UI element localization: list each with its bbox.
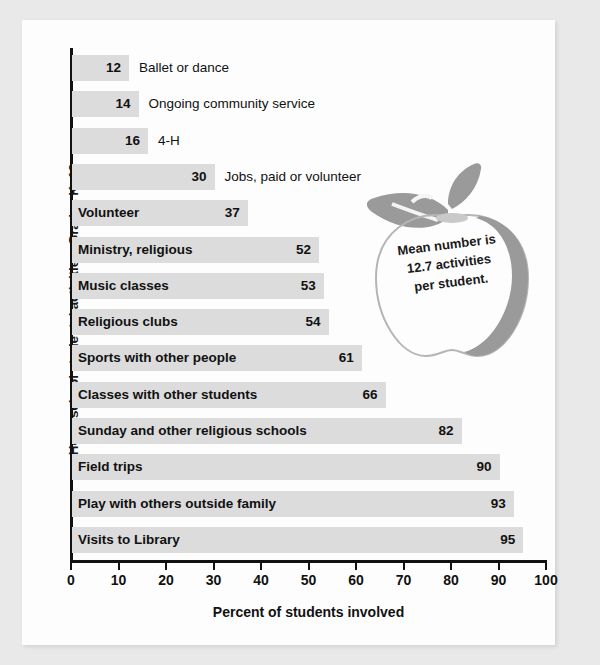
bar-value-label: 66 — [72, 382, 378, 408]
x-axis-tick-label: 50 — [301, 572, 317, 588]
x-axis-tick — [118, 562, 120, 570]
bar-value-label: 95 — [72, 527, 515, 553]
bar-value-label: 14 — [72, 91, 131, 117]
bar-row: Play with others outside family93 — [72, 491, 547, 517]
x-axis: 0102030405060708090100 — [70, 560, 547, 561]
bar-row: 12Ballet or dance — [72, 55, 547, 81]
bar-row: Classes with other students66 — [72, 382, 547, 408]
bar-category-label: Jobs, paid or volunteer — [225, 164, 362, 190]
bar-row: Sunday and other religious schools82 — [72, 418, 547, 444]
x-axis-tick-label: 10 — [111, 572, 127, 588]
apple-callout: Mean number is 12.7 activities per stude… — [352, 158, 552, 368]
x-axis-tick — [403, 562, 405, 570]
bar-category-label: Ballet or dance — [139, 55, 229, 81]
x-axis-tick — [70, 562, 72, 570]
x-axis-tick-label: 60 — [348, 572, 364, 588]
x-axis-tick — [498, 562, 500, 570]
x-axis-tick-label: 100 — [534, 572, 557, 588]
chart-figure: Homeschool students' activities, Grades … — [0, 0, 600, 665]
bar-row: 14Ongoing community service — [72, 91, 547, 117]
x-axis-tick — [165, 562, 167, 570]
bar-value-label: 93 — [72, 491, 506, 517]
bar-value-label: 16 — [72, 128, 140, 154]
x-axis-tick — [260, 562, 262, 570]
x-axis-tick — [450, 562, 452, 570]
x-axis-tick-label: 90 — [491, 572, 507, 588]
bar-row: 164-H — [72, 128, 547, 154]
x-axis-tick-label: 40 — [253, 572, 269, 588]
x-axis-tick — [308, 562, 310, 570]
x-axis-tick-label: 70 — [396, 572, 412, 588]
x-axis-tick-label: 20 — [158, 572, 174, 588]
bar-category-label: Ongoing community service — [149, 91, 316, 117]
x-axis-tick — [213, 562, 215, 570]
apple-stem-icon — [448, 163, 481, 209]
bar-value-label: 90 — [72, 454, 492, 480]
x-axis-tick — [545, 562, 547, 570]
bar-value-label: 30 — [72, 164, 207, 190]
x-axis-title: Percent of students involved — [70, 604, 547, 620]
bar-row: Visits to Library95 — [72, 527, 547, 553]
x-axis-tick-label: 30 — [206, 572, 222, 588]
bar-value-label: 52 — [72, 237, 311, 263]
x-axis-tick-label: 80 — [443, 572, 459, 588]
bar-value-label: 61 — [72, 345, 354, 371]
bar-value-label: 54 — [72, 309, 321, 335]
bar-value-label: 12 — [72, 55, 121, 81]
bar-category-label: 4-H — [158, 128, 180, 154]
apple-stem-base-icon — [436, 213, 468, 223]
bar-value-label: 82 — [72, 418, 454, 444]
bar-row: Field trips90 — [72, 454, 547, 480]
bar-value-label: 37 — [72, 200, 240, 226]
x-axis-tick — [355, 562, 357, 570]
bar-value-label: 53 — [72, 273, 316, 299]
x-axis-tick-label: 0 — [67, 572, 75, 588]
